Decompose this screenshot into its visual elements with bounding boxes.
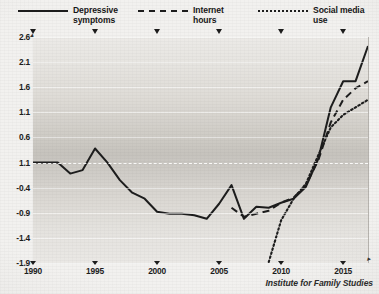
y-axis-tick-label: 2.6 — [2, 32, 30, 42]
chart-legend: Depressive symptoms Internet hours Socia… — [0, 6, 379, 32]
x-axis-tick-label: 2000 — [148, 266, 166, 276]
gridline — [33, 263, 368, 264]
y-axis-tick-label: 1.1 — [2, 158, 30, 168]
y-axis-tick-label: 1.6 — [2, 82, 30, 92]
x-axis-tick-label: 2015 — [334, 266, 352, 276]
series-line-internet-hours — [232, 81, 368, 217]
y-axis-arrow-icon: ▴ — [30, 31, 34, 39]
x-axis-tick-label: 2010 — [272, 266, 290, 276]
legend-line-dotted-icon — [258, 10, 308, 12]
legend-label: Depressive symptoms — [73, 6, 118, 25]
x-axis-tick-marker — [340, 261, 346, 265]
gridline — [33, 238, 368, 239]
legend-item-internet-hours: Internet hours — [138, 6, 224, 25]
gridline — [33, 188, 368, 189]
series-line-depressive-symptoms — [33, 46, 368, 219]
legend-line-dashed-icon — [138, 10, 188, 12]
y-axis-tick-label: 0.6 — [2, 132, 30, 142]
legend-item-depressive-symptoms: Depressive symptoms — [18, 6, 118, 25]
gridline — [33, 62, 368, 63]
chart-series-lines — [33, 37, 368, 263]
y-axis-tick-label: 2.1 — [2, 57, 30, 67]
x-axis-tick-marker — [278, 261, 284, 265]
y-axis: 2.62.11.61.10.61.1-0.4-0.9-1.4-1.9 — [0, 37, 30, 263]
legend-label: Internet hours — [193, 6, 224, 25]
x-axis-tick-marker — [154, 261, 160, 265]
legend-item-social-media-use: Social media use — [258, 6, 379, 25]
x-axis-tick-marker — [216, 261, 222, 265]
x-axis-arrow-icon: ▸ — [367, 255, 371, 263]
gridline — [33, 37, 368, 38]
x-axis-tick-label: 1990 — [24, 266, 42, 276]
y-axis-tick-label: -1.4 — [2, 233, 30, 243]
y-axis-tick-label: -0.4 — [2, 183, 30, 193]
chart-credit: Institute for Family Studies — [265, 278, 373, 288]
legend-label: Social media use — [313, 6, 379, 25]
x-axis-tick-marker — [30, 261, 36, 265]
legend-line-solid-icon — [18, 10, 68, 12]
x-axis-tick-label: 2005 — [210, 266, 228, 276]
gridline — [33, 137, 368, 138]
y-axis-tick-label: 1.1 — [2, 107, 30, 117]
plot-area — [33, 37, 369, 263]
gridline — [33, 213, 368, 214]
x-axis-tick-label: 1995 — [86, 266, 104, 276]
gridline — [33, 87, 368, 88]
y-axis-tick-label: -0.9 — [2, 208, 30, 218]
x-axis-tick-marker — [92, 261, 98, 265]
gridline — [33, 163, 368, 164]
gridline — [33, 112, 368, 113]
